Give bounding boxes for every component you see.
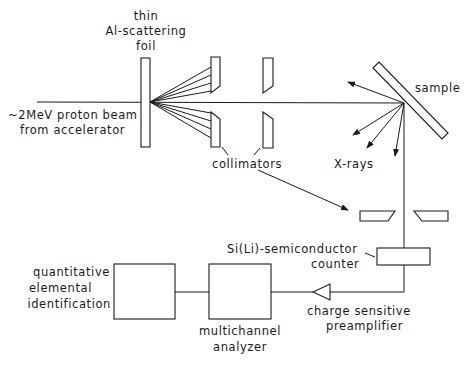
foil-label-2: Al-scattering [106,24,187,38]
sample-label: sample [415,81,460,95]
scattering-foil [141,58,150,147]
collimator-1-upper [211,57,220,93]
proton-beam-line [37,102,404,103]
counter-leader [365,253,375,257]
beam-label-1: ~2MeV proton beam [8,108,138,122]
multichannel-analyzer [209,264,271,319]
counter-label-1: Si(Li)-semiconductor [227,242,358,256]
identification-label-1: quantitative [33,265,110,279]
collimator-leader-2 [254,148,260,155]
collimator-2-upper [263,58,273,93]
xray-arrows [348,82,404,156]
beam-label-2: from accelerator [20,123,125,137]
identification-label-2: elemental [29,281,92,295]
foil-label-3: foil [136,39,156,53]
pixe-diagram: thin Al-scattering foil ~2MeV proton bea… [0,0,464,368]
detector-collimator-right [414,211,448,221]
identification-label-3: identification [27,297,111,311]
mca-label-1: multichannel [199,324,281,338]
collimator-leader-1 [222,147,228,155]
preamp-label-2: preamplifier [326,319,403,333]
collimator-2-lower [263,112,273,148]
elemental-identification-box [114,264,175,319]
mca-label-2: analyzer [213,340,267,354]
xrays-label: X-rays [334,157,374,171]
scattered-rays-lower [150,102,211,138]
detector-collimator-left [360,211,395,221]
collimator-1-lower [211,112,220,147]
collimator-leader-3 [258,170,348,210]
preamplifier [313,284,330,300]
counter-label-2: counter [311,257,359,271]
foil-label-1: thin [134,9,159,23]
si-li-counter [377,248,430,265]
collimators-label: collimators [212,157,282,171]
scattered-rays-upper [150,67,211,102]
preamp-label-1: charge sensitive [307,304,411,318]
